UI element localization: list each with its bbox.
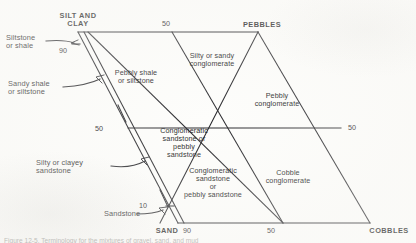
- leader-siltstone-or-shale: [46, 40, 74, 43]
- callout-label-sandy-shale: Sandy shale or siltstone: [8, 80, 50, 97]
- field-label-silty-sandy-conglomerate: Silty or sandy conglomerate: [190, 52, 235, 68]
- band-tick-upper: [118, 105, 126, 122]
- tick-label-top-50: 50: [162, 20, 170, 28]
- vertex-label-pebbles: PEBBLES: [243, 21, 281, 29]
- figure-caption: Figure 12-5. Terminology for the mixture…: [4, 237, 199, 243]
- tick-label-left-90: 90: [59, 47, 67, 55]
- leader-silty-clayey-sandstone: [111, 161, 145, 167]
- leader-sandy-shale: [63, 79, 100, 87]
- tick-label-bottom-90: 90: [183, 227, 191, 235]
- field-label-conglomeratic-sandstone-lower: Conglomeratic sandstone or pebbly sandst…: [184, 167, 242, 199]
- vertex-label-silt-and-clay: SILT AND CLAY: [60, 12, 97, 29]
- tick-label-left-50: 50: [95, 125, 103, 133]
- callout-label-siltstone-or-shale: Siltstone or shale: [6, 34, 35, 51]
- figure-page: SILT AND CLAY PEBBLES SAND COBBLES 50 90…: [0, 0, 416, 243]
- tick-label-left-10: 10: [139, 202, 147, 210]
- diagram-canvas: [0, 0, 416, 243]
- leader-sandstone: [137, 210, 163, 214]
- field-label-cobble-conglomerate: Cobble conglomerate: [266, 169, 311, 185]
- field-label-pebbly-shale: Pebbly shale or siltstone: [115, 69, 157, 85]
- tick-label-bottom-50: 50: [267, 227, 275, 235]
- callout-label-sandstone: Sandstone: [104, 210, 140, 218]
- band-tick-lower: [160, 190, 168, 207]
- field-label-conglomeratic-sandstone-upper: Conglomeratic sandstone or pebbly sandst…: [160, 127, 208, 159]
- callout-label-silty-clayey-sandstone: Silty or clayey sandstone: [36, 159, 83, 176]
- tick-label-right-50: 50: [348, 124, 356, 132]
- field-label-pebbly-conglomerate: Pebbly conglomerate: [255, 92, 300, 108]
- vertex-label-cobbles: COBBLES: [369, 227, 408, 235]
- vertex-label-sand: SAND: [156, 227, 179, 235]
